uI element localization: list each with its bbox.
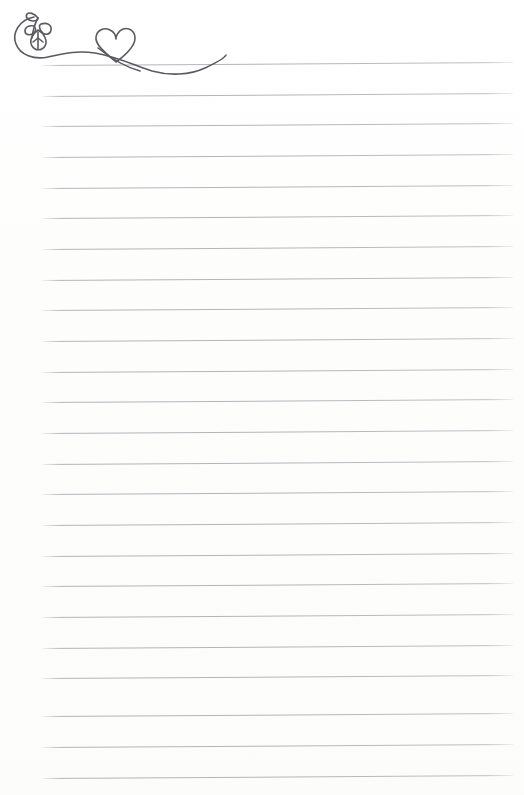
ruled-lines — [0, 0, 524, 795]
rule-line — [42, 338, 513, 342]
rule-line — [42, 461, 513, 465]
rule-line — [42, 369, 513, 373]
rule-line — [42, 675, 513, 679]
rule-line — [42, 491, 513, 495]
rule-line — [42, 185, 513, 189]
rule-line — [42, 246, 513, 250]
rule-line — [42, 123, 513, 127]
rule-line — [42, 277, 513, 281]
rule-line — [42, 430, 513, 434]
rule-line — [42, 775, 513, 779]
rule-line — [42, 62, 513, 66]
rule-line — [42, 522, 513, 526]
rule-line — [42, 154, 513, 158]
rule-line — [42, 215, 513, 219]
rule-line — [42, 93, 513, 97]
rule-line — [42, 713, 513, 717]
rule-line — [42, 399, 513, 403]
rule-line — [42, 645, 513, 649]
rule-line — [42, 744, 513, 748]
rule-line — [42, 553, 513, 557]
rule-line — [42, 307, 513, 311]
stationery-page: Lined Notepaper With Heart And Vine Flou… — [0, 0, 524, 795]
rule-line — [42, 583, 513, 587]
rule-line — [42, 614, 513, 618]
